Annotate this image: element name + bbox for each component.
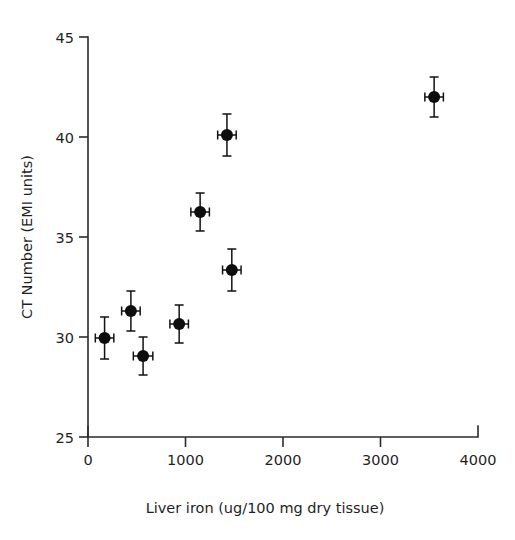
- x-axis-title: Liver iron (ug/100 mg dry tissue): [146, 500, 385, 516]
- x-tick-label-1000: 1000: [167, 452, 204, 468]
- data-point-6: [218, 114, 237, 156]
- data-point-3: [133, 337, 153, 375]
- x-tick-label-4000: 4000: [460, 452, 497, 468]
- data-marker: [194, 206, 206, 218]
- data-point-4: [170, 305, 189, 343]
- y-tick-label-25: 25: [56, 430, 74, 446]
- data-point-2: [122, 291, 141, 331]
- ticks-group: [79, 37, 478, 447]
- data-point-7: [223, 249, 242, 291]
- x-tick-label-3000: 3000: [362, 452, 399, 468]
- data-marker: [99, 332, 111, 344]
- y-tick-label-40: 40: [56, 130, 74, 146]
- data-point-1: [95, 317, 114, 359]
- x-tick-label-2000: 2000: [265, 452, 302, 468]
- y-axis-title: CT Number (EMI units): [19, 155, 35, 319]
- x-tick-label-0: 0: [83, 452, 92, 468]
- data-points-group: [95, 77, 443, 375]
- data-point-8: [425, 77, 444, 117]
- y-tick-label-30: 30: [56, 330, 74, 346]
- data-marker: [221, 129, 233, 141]
- data-marker: [226, 264, 238, 276]
- data-marker: [428, 91, 440, 103]
- scatter-chart-figure: 253035404501000200030004000 Liver iron (…: [0, 0, 515, 540]
- axes-group: [88, 37, 478, 437]
- data-point-5: [191, 193, 210, 231]
- axis-spines: [88, 37, 478, 437]
- y-tick-label-35: 35: [56, 230, 74, 246]
- y-tick-label-45: 45: [56, 30, 74, 46]
- plot-canvas: 253035404501000200030004000 Liver iron (…: [0, 0, 515, 540]
- data-marker: [137, 350, 149, 362]
- data-marker: [173, 318, 185, 330]
- data-marker: [125, 305, 137, 317]
